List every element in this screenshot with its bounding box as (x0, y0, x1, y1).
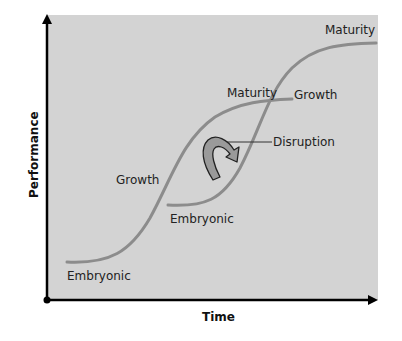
disruption-arrow-icon (203, 137, 239, 180)
label-curve1-embryonic: Embryonic (67, 270, 131, 282)
s-curve-first-technology (67, 99, 292, 262)
label-disruption: Disruption (273, 136, 335, 148)
label-curve1-growth: Growth (116, 174, 159, 186)
y-axis-title: Performance (28, 111, 40, 198)
s-curve-second-technology (168, 43, 376, 205)
label-curve2-embryonic: Embryonic (170, 213, 234, 225)
s-curve-diagram: Embryonic Growth Maturity Embryonic Grow… (0, 0, 402, 341)
label-curve1-maturity: Maturity (227, 87, 277, 99)
y-axis-arrowhead-icon (42, 14, 52, 24)
origin-dot (44, 297, 51, 304)
diagram-graphics (0, 0, 402, 341)
x-axis-title: Time (202, 311, 235, 323)
x-axis-arrowhead-icon (368, 295, 378, 305)
label-curve2-growth: Growth (294, 89, 337, 101)
label-curve2-maturity: Maturity (325, 24, 375, 36)
